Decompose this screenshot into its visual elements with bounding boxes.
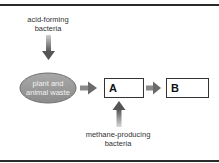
box-b: B xyxy=(167,79,209,98)
methane-producing-bacteria-label-line2: bacteria xyxy=(105,139,133,148)
box-a-label: A xyxy=(109,82,117,94)
up-arrow-icon xyxy=(113,101,126,127)
right-arrow-icon xyxy=(80,82,97,95)
plant-animal-waste-line2: animal waste xyxy=(26,88,70,97)
box-a: A xyxy=(105,79,144,98)
down-arrow-icon xyxy=(42,35,55,60)
box-b-label: B xyxy=(171,82,179,94)
acid-forming-bacteria-label-line1: acid-forming xyxy=(27,15,68,24)
plant-animal-waste-ellipse: plant and animal waste xyxy=(20,73,76,103)
right-arrow-icon xyxy=(146,82,161,95)
plant-animal-waste-line1: plant and xyxy=(33,79,64,88)
acid-forming-bacteria-label-line2: bacteria xyxy=(35,24,63,33)
methane-producing-bacteria-label-line1: methane-producing xyxy=(86,130,151,139)
anaerobic-digestion-diagram: acid-forming bacteria plant and animal w… xyxy=(0,0,219,163)
